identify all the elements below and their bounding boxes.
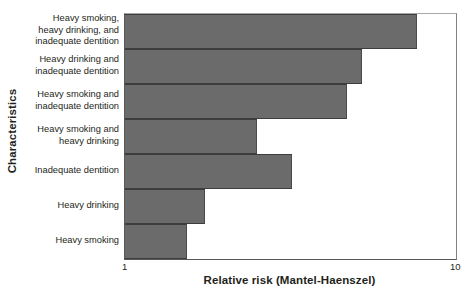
bar-2 bbox=[125, 84, 347, 119]
category-label-2: Heavy smoking and inadequate dentition bbox=[22, 83, 119, 118]
category-label-0-line-1: heavy drinking, and bbox=[22, 25, 119, 37]
category-label-1: Heavy drinking and inadequate dentition bbox=[22, 48, 119, 83]
bar-chart: Characteristics Heavy smoking, heavy dri… bbox=[0, 0, 474, 296]
category-label-5-line-0: Heavy drinking bbox=[22, 200, 119, 212]
category-label-4: Inadequate dentition bbox=[22, 153, 119, 188]
category-label-2-line-1: inadequate dentition bbox=[22, 101, 119, 113]
category-label-3-line-0: Heavy smoking and bbox=[22, 124, 119, 136]
bar-0 bbox=[125, 14, 417, 49]
category-label-5: Heavy drinking bbox=[22, 188, 119, 223]
category-label-0-line-0: Heavy smoking, bbox=[22, 13, 119, 25]
x-axis-tick-max: 10 bbox=[450, 261, 461, 272]
category-label-4-line-0: Inadequate dentition bbox=[22, 165, 119, 177]
plot-area bbox=[124, 13, 457, 260]
y-axis-title: Characteristics bbox=[0, 0, 24, 262]
bar-5 bbox=[125, 189, 205, 224]
category-label-1-line-1: inadequate dentition bbox=[22, 66, 119, 78]
bar-6 bbox=[125, 224, 187, 259]
category-label-3: Heavy smoking and heavy drinking bbox=[22, 118, 119, 153]
category-label-6-line-0: Heavy smoking bbox=[22, 235, 119, 247]
category-label-2-line-0: Heavy smoking and bbox=[22, 89, 119, 101]
bar-4 bbox=[125, 154, 292, 189]
category-label-1-line-0: Heavy drinking and bbox=[22, 54, 119, 66]
bar-series bbox=[125, 14, 456, 259]
category-label-0-line-2: inadequate dentition bbox=[22, 36, 119, 48]
category-label-column: Heavy smoking, heavy drinking, and inade… bbox=[24, 13, 122, 258]
x-axis-tick-min: 1 bbox=[122, 261, 127, 272]
category-label-6: Heavy smoking bbox=[22, 223, 119, 258]
category-label-3-line-1: heavy drinking bbox=[22, 136, 119, 148]
y-axis-title-text: Characteristics bbox=[6, 89, 18, 174]
bar-3 bbox=[125, 119, 257, 154]
category-label-0: Heavy smoking, heavy drinking, and inade… bbox=[22, 13, 119, 48]
bar-1 bbox=[125, 49, 362, 84]
x-axis-title: Relative risk (Mantel-Haenszel) bbox=[124, 274, 455, 286]
